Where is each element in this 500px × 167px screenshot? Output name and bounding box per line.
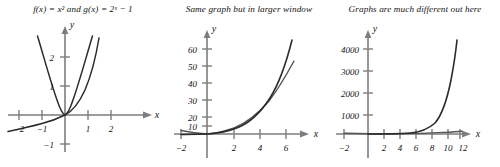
x-tick-label-far-out-2: 4 [398,143,403,153]
x-axis-label-far-out: x [475,128,481,139]
y-tick-label-far-out-0: 4000 [341,45,360,55]
x-axis-standard [8,111,152,118]
curve-exponential-far-out [368,40,457,134]
x-tick-label-far-out-3: 6 [414,143,419,153]
panel-far-out-window: Graphs are much different out here [332,0,498,167]
x-tick-label-larger-2: 4 [258,143,263,153]
panel-caption-standard: f(x) = x² and g(x) = 2ˣ − 1 [0,0,166,15]
curve-exponential-larger [181,40,292,135]
panel-standard-window: f(x) = x² and g(x) = 2ˣ − 1 [0,0,166,167]
panel-larger-window: Same graph but in larger window [166,0,332,167]
y-tick-label-far-out-2: 2000 [341,89,360,99]
x-tick-label-standard-0: −2 [14,124,25,134]
panel-caption-larger: Same graph but in larger window [166,0,332,15]
y-axis-label-far-out: y [372,23,378,34]
y-tick-label-larger-2: 40 [188,79,198,89]
x-tick-label-standard-1: −1 [37,124,48,134]
x-tick-label-far-out-6: 12 [459,143,469,153]
three-panel-graph-figure: f(x) = x² and g(x) = 2ˣ − 1 [0,0,500,167]
plot-far-out-window: −2 2 4 6 8 10 12 4000 3000 2000 1000 x y [332,18,498,167]
plot-standard-window: −2 −1 1 2 2 1 −1 x y [0,18,166,167]
y-tick-label-standard-2: −1 [43,140,54,150]
y-tick-label-far-out-1: 3000 [340,67,360,77]
plot-larger-window: −2 2 4 6 60 50 40 30 20 10 x y [166,18,332,167]
x-tick-label-far-out-1: 2 [382,143,387,153]
x-tick-label-far-out-4: 8 [430,143,435,153]
x-tick-label-larger-0: −2 [176,143,187,153]
x-tick-label-far-out-5: 10 [444,143,454,153]
x-tick-label-standard-2: 1 [86,124,91,134]
y-tick-label-larger-3: 30 [187,96,198,106]
x-axis-label-larger: x [313,128,319,139]
x-tick-label-larger-3: 6 [284,143,289,153]
curve-parabola-larger [181,61,294,134]
y-axis-standard [62,26,69,152]
y-tick-label-standard-1: 1 [50,82,55,92]
y-tick-label-standard-0: 2 [50,53,55,63]
y-tick-label-larger-1: 50 [188,62,198,72]
y-axis-label-larger: y [211,23,217,34]
y-axis-label-standard: y [69,19,75,30]
x-tick-label-far-out-0: −2 [339,143,350,153]
x-tick-label-standard-3: 2 [109,124,114,134]
y-tick-label-larger-5: 10 [188,122,198,132]
x-axis-label-standard: x [154,109,160,120]
x-tick-label-larger-1: 2 [232,143,237,153]
panel-caption-far-out: Graphs are much different out here [332,0,498,15]
y-tick-label-far-out-3: 1000 [341,111,360,121]
y-tick-label-larger-0: 60 [188,45,198,55]
